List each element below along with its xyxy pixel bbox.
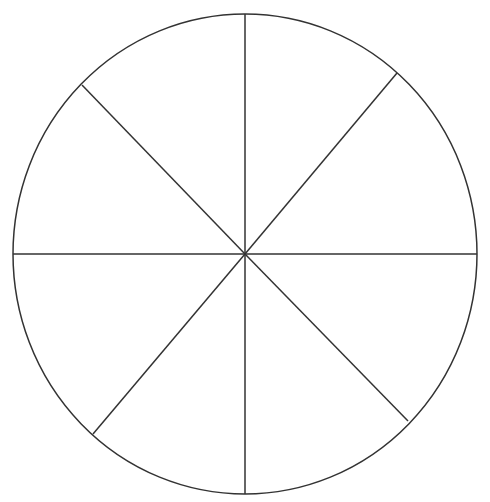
eight-segment-circle-diagram bbox=[0, 0, 490, 502]
spoke-top-right bbox=[245, 73, 397, 254]
spoke-lines bbox=[13, 14, 477, 494]
spoke-top-left bbox=[82, 85, 245, 254]
diagram-canvas bbox=[0, 0, 490, 502]
spoke-bottom-left bbox=[93, 254, 245, 434]
spoke-bottom-right bbox=[245, 254, 408, 421]
